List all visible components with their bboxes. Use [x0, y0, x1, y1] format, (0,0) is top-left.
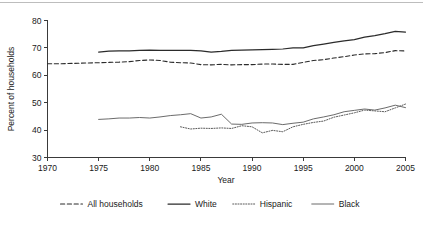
x-tick-label: 1975: [89, 163, 108, 173]
chart-legend: All householdsWhiteHispanicBlack: [61, 199, 361, 209]
y-tick-label: 50: [32, 98, 42, 108]
legend-label-hispanic: Hispanic: [260, 199, 293, 209]
legend-label-all-households: All households: [88, 199, 143, 209]
series-line-all-households: [48, 51, 406, 65]
x-tick-label: 1995: [294, 163, 313, 173]
x-tick-label: 1990: [243, 163, 262, 173]
series-line-black: [99, 105, 406, 124]
series-line-hispanic: [180, 104, 405, 133]
data-series-layer: [48, 31, 406, 132]
y-tick-label: 30: [32, 153, 42, 163]
y-tick-label: 60: [32, 70, 42, 80]
series-line-white: [99, 31, 406, 52]
x-tick-label: 1980: [140, 163, 159, 173]
legend-label-black: Black: [339, 199, 361, 209]
legend-label-white: White: [195, 199, 217, 209]
x-tick-label: 1985: [191, 163, 210, 173]
y-axis-ticks: 304050607080: [32, 16, 47, 163]
y-tick-label: 70: [32, 43, 42, 53]
x-tick-label: 1970: [38, 163, 57, 173]
y-tick-label: 40: [32, 125, 42, 135]
x-axis-title: Year: [217, 175, 234, 185]
chart-figure: 304050607080 197019751980198519901995200…: [0, 0, 423, 227]
y-axis-title: Percent of households: [6, 47, 16, 132]
line-chart-plot: 304050607080 197019751980198519901995200…: [0, 0, 423, 227]
x-tick-label: 2000: [345, 163, 364, 173]
y-tick-label: 80: [32, 16, 42, 26]
x-axis-ticks: 19701975198019851990199520002005: [38, 158, 415, 173]
x-tick-label: 2005: [396, 163, 415, 173]
